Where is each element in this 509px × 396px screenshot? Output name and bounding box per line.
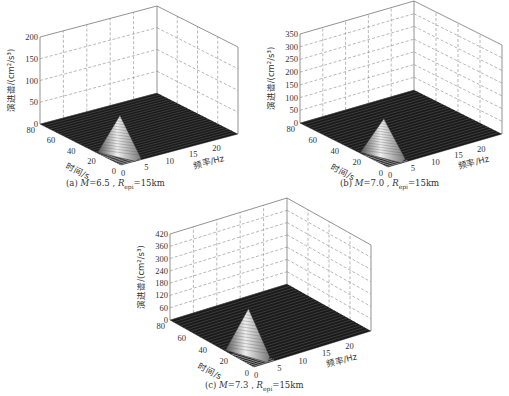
z-tick: 300 [155, 254, 168, 264]
z-tick: 120 [155, 290, 168, 300]
time-tick: 40 [199, 345, 208, 355]
time-tick: 80 [157, 321, 166, 331]
z-tick: 180 [155, 278, 168, 288]
freq-tick: 15 [322, 348, 331, 358]
caption-c: (c) M=7.3 , Repi=15km [205, 380, 303, 392]
z-tick: 420 [155, 229, 168, 239]
freq-tick: 5 [277, 363, 281, 373]
time-tick: 20 [220, 356, 229, 366]
time-tick: 0 [245, 368, 249, 378]
freq-tick: 0 [254, 370, 258, 380]
surface-plot-c: 06012018024030036042002040608005101520演进… [0, 0, 509, 396]
z-axis-label: 演进谱/(cm²/s³) [136, 245, 146, 309]
freq-tick: 20 [345, 341, 354, 351]
z-tick: 360 [155, 241, 168, 251]
freq-tick: 10 [299, 356, 308, 366]
time-tick: 60 [178, 333, 187, 343]
z-tick: 240 [155, 266, 168, 276]
z-tick: 60 [160, 303, 169, 313]
